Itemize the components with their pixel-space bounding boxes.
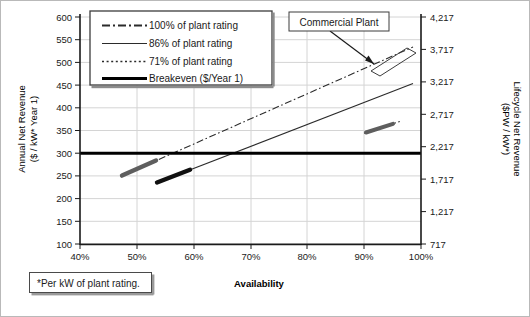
y2-tick-label: 4,217 <box>430 12 454 23</box>
x-tick-label: 70% <box>241 251 261 262</box>
y-tick-label: 350 <box>56 125 72 136</box>
y2-tick-label: 3,717 <box>430 44 454 55</box>
y2-tick-label: 717 <box>430 239 446 250</box>
footnote-label: *Per kW of plant rating. <box>37 278 140 289</box>
y-tick-label: 150 <box>56 216 72 227</box>
y2-tick-label: 2,217 <box>430 141 454 152</box>
x-tick-label: 100% <box>409 251 434 262</box>
series-71-percent <box>364 121 401 133</box>
x-tick-label: 90% <box>354 251 374 262</box>
y2-tick-label: 1,717 <box>430 174 454 185</box>
y-tick-label: 550 <box>56 34 72 45</box>
footnote-box: *Per kW of plant rating. <box>30 273 155 296</box>
y2-axis-title-line2: ($PW / kW*) <box>501 103 512 155</box>
legend-label: 100% of plant rating <box>149 20 238 31</box>
chart-figure: 600 550 500 450 400 350 300 250 200 150 … <box>0 0 530 317</box>
y2-axis-title-line1: Lifecycle Net Revenue <box>512 81 523 176</box>
y-axis-right-ticks: 4,217 3,717 3,217 2,717 2,217 1,717 1,21… <box>421 12 454 250</box>
commercial-plant-annotation: Commercial Plant <box>289 12 416 76</box>
y2-tick-label: 2,717 <box>430 109 454 120</box>
y-tick-label: 100 <box>56 239 72 250</box>
commercial-plant-label: Commercial Plant <box>300 17 379 28</box>
y-tick-label: 300 <box>56 148 72 159</box>
y-axis-right-title: Lifecycle Net Revenue ($PW / kW*) <box>501 81 523 176</box>
y-tick-label: 450 <box>56 80 72 91</box>
legend-label: Breakeven ($/Year 1) <box>149 73 243 84</box>
y-axis-left-ticks: 600 550 500 450 400 350 300 250 200 150 … <box>56 12 80 250</box>
legend-label: 86% of plant rating <box>149 38 232 49</box>
series-86-percent <box>156 84 413 183</box>
y-tick-label: 600 <box>56 12 72 23</box>
y-tick-label: 400 <box>56 102 72 113</box>
chart-legend: 100% of plant rating 86% of plant rating… <box>90 11 275 88</box>
y2-tick-label: 1,217 <box>430 206 454 217</box>
y-axis-title-line2: ($ / kW* Year 1) <box>28 96 39 163</box>
x-axis-title: Availability <box>234 278 285 289</box>
y-axis-left-title: Annual Net Revenue ($ / kW* Year 1) <box>16 85 39 173</box>
legend-label: 71% of plant rating <box>149 56 232 67</box>
y-axis-title-line1: Annual Net Revenue <box>16 85 27 173</box>
x-tick-label: 60% <box>184 251 204 262</box>
x-tick-label: 40% <box>70 251 90 262</box>
x-tick-label: 50% <box>127 251 147 262</box>
y2-tick-label: 3,217 <box>430 76 454 87</box>
y-tick-label: 250 <box>56 170 72 181</box>
revenue-vs-availability-chart: 600 550 500 450 400 350 300 250 200 150 … <box>1 1 530 317</box>
x-axis-ticks: 40% 50% 60% 70% 80% 90% 100% <box>70 244 433 262</box>
y-tick-label: 500 <box>56 57 72 68</box>
x-tick-label: 80% <box>297 251 317 262</box>
y-tick-label: 200 <box>56 193 72 204</box>
